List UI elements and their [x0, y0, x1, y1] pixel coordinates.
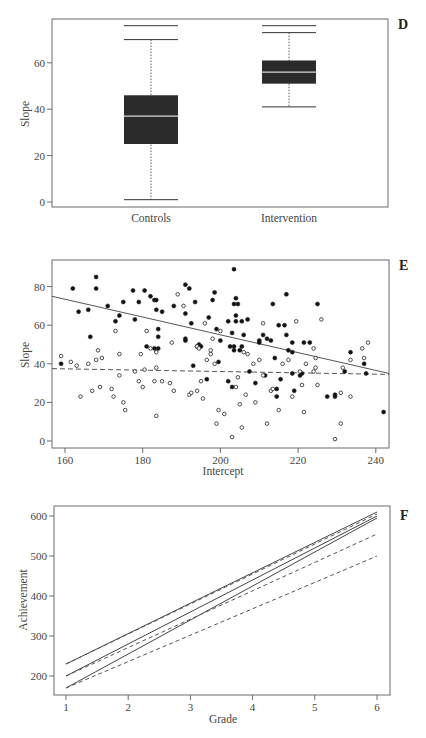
open-point — [238, 403, 242, 407]
y-tick-label: 0 — [40, 196, 46, 208]
y-tick-label: 20 — [34, 150, 46, 162]
open-point — [265, 422, 269, 426]
x-tick-label: 6 — [374, 701, 380, 713]
open-point — [87, 362, 91, 366]
filled-point — [86, 308, 90, 312]
x-tick-label: 220 — [290, 454, 307, 466]
panel-f-series — [66, 512, 377, 688]
filled-point — [149, 294, 153, 298]
open-point — [333, 437, 337, 441]
filled-point — [302, 341, 306, 345]
open-point — [219, 329, 223, 333]
category-label: Intervention — [261, 212, 317, 224]
panel-f-xlabel: Grade — [209, 713, 237, 725]
open-point — [90, 389, 94, 393]
x-tick-label: 3 — [188, 701, 194, 713]
panel-d-y-axis: 0204060 — [34, 57, 52, 208]
filled-point — [183, 283, 187, 287]
filled-point — [183, 312, 187, 316]
y-tick-label: 300 — [31, 630, 48, 642]
y-tick-label: 80 — [34, 281, 46, 293]
x-tick-label: 1 — [63, 701, 69, 713]
open-point — [349, 358, 353, 362]
filled-point — [154, 308, 158, 312]
open-point — [281, 362, 285, 366]
panel-d-boxes — [124, 26, 316, 200]
y-tick-label: 40 — [34, 103, 46, 115]
panel-e-y-axis: 020406080 — [34, 281, 52, 447]
open-point — [312, 370, 316, 374]
open-point — [75, 364, 79, 368]
open-point — [258, 358, 262, 362]
filled-point — [265, 337, 269, 341]
open-point — [176, 293, 180, 297]
box-intervention — [262, 26, 316, 107]
filled-point — [248, 370, 252, 374]
filled-point — [275, 387, 279, 391]
filled-point — [137, 300, 141, 304]
filled-point — [187, 287, 191, 291]
open-point — [271, 387, 275, 391]
filled-point — [238, 348, 242, 352]
x-tick-label: 180 — [134, 454, 151, 466]
filled-point — [189, 321, 193, 325]
open-point — [199, 379, 203, 383]
panel-e-xlabel: Intercept — [203, 465, 245, 478]
open-point — [314, 356, 318, 360]
open-point — [254, 401, 258, 405]
filled-point — [156, 335, 160, 339]
open-point — [236, 376, 240, 380]
filled-point — [362, 362, 366, 366]
open-point — [100, 356, 104, 360]
open-point — [240, 426, 244, 430]
filled-point — [343, 370, 347, 374]
open-point — [112, 395, 116, 399]
filled-point — [154, 298, 158, 302]
open-point — [197, 347, 201, 351]
open-point — [172, 389, 176, 393]
filled-point — [283, 323, 287, 327]
panel-f-letter: F — [400, 508, 409, 523]
open-point — [96, 349, 100, 353]
panel-e-points — [59, 267, 386, 441]
box-controls — [124, 26, 178, 200]
x-tick-label: 240 — [368, 454, 385, 466]
open-point — [339, 391, 343, 395]
open-point — [287, 358, 291, 362]
filled-point — [133, 317, 137, 321]
filled-point — [290, 350, 294, 354]
open-point — [118, 374, 122, 378]
filled-point — [193, 300, 197, 304]
open-point — [261, 374, 265, 378]
filled-point — [228, 344, 232, 348]
filled-point — [242, 333, 246, 337]
panel-e-ylabel: Slope — [19, 342, 32, 368]
open-point — [149, 347, 153, 351]
open-point — [291, 395, 295, 399]
figure: 0204060 Slope ControlsIntervention D 020… — [0, 0, 426, 738]
panel-f-y-axis: 200300400500600 — [31, 510, 55, 682]
panel-d-x-axis: ControlsIntervention — [131, 212, 317, 224]
dashed-1-line — [66, 514, 377, 664]
open-point — [69, 360, 73, 364]
open-point — [153, 379, 157, 383]
filled-point — [325, 395, 329, 399]
open-point — [143, 368, 147, 372]
open-point — [59, 354, 63, 358]
filled-point — [234, 296, 238, 300]
filled-point — [284, 292, 288, 296]
iqr-box — [124, 95, 178, 144]
filled-point — [117, 314, 121, 318]
open-point — [155, 366, 159, 370]
y-tick-label: 60 — [34, 319, 46, 331]
filled-point — [261, 333, 265, 337]
filled-point — [183, 339, 187, 343]
open-point — [110, 387, 114, 391]
solid-2-line — [66, 516, 377, 676]
dashed-fit — [52, 369, 389, 375]
filled-point — [232, 344, 236, 348]
filled-point — [121, 300, 125, 304]
open-point — [277, 408, 281, 412]
panel-f-x-axis: 123456 — [63, 695, 380, 713]
open-point — [133, 370, 137, 374]
